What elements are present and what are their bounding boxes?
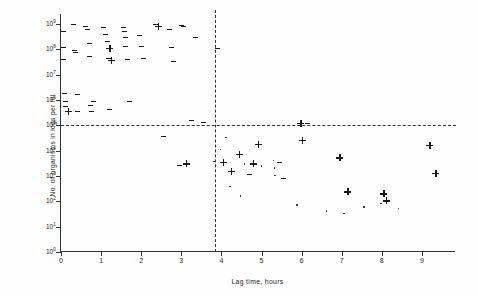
data-point-dash (87, 56, 92, 57)
data-point-dot (240, 195, 242, 197)
x-axis-tick-label: 7 (332, 257, 352, 265)
data-point-plus (236, 151, 243, 158)
x-axis-tick (382, 251, 383, 256)
x-axis-tick (422, 251, 423, 256)
data-point-dash (103, 34, 108, 35)
data-point-dash (87, 43, 92, 44)
data-point-dash (123, 46, 128, 47)
data-point-plus (106, 45, 113, 52)
figure-root: 100101102103104105106107108109 No. of or… (0, 0, 478, 296)
data-point-plus (426, 142, 433, 149)
data-point-dash (169, 47, 174, 48)
data-point-dash (71, 24, 76, 25)
data-point-dash (91, 101, 96, 102)
y-axis-tick (56, 100, 61, 101)
y-axis-tick (56, 151, 61, 152)
data-point-dash (305, 123, 310, 124)
data-point-dash (137, 35, 142, 36)
data-point-plus (255, 141, 262, 148)
data-point-plus (432, 170, 439, 177)
data-point-dash (105, 41, 110, 42)
data-point-dash (63, 101, 68, 102)
x-axis-tick-label: 8 (372, 257, 392, 265)
data-point-plus (108, 57, 115, 64)
data-point-dash (167, 29, 172, 30)
data-point-dot (343, 213, 345, 215)
data-point-dash (201, 122, 206, 123)
data-point-plus (344, 188, 351, 195)
data-point-dash (85, 29, 90, 30)
data-point-dash (75, 94, 80, 95)
data-point-dot (380, 203, 382, 205)
data-point-plus (183, 160, 190, 167)
data-point-plus (228, 168, 235, 175)
data-point-plus (250, 160, 257, 167)
y-axis-tick-label: 100 (46, 248, 56, 255)
data-point-dash (193, 37, 198, 38)
data-point-dash (281, 178, 286, 179)
y-axis-tick (56, 227, 61, 228)
data-point-dash (83, 26, 88, 27)
y-axis-tick (56, 49, 61, 50)
x-axis-title: Lag time, hours (60, 278, 455, 285)
x-axis-tick-label: 1 (91, 257, 111, 265)
data-point-dot (261, 165, 263, 167)
data-point-dash (62, 93, 67, 94)
vertical-reference-line (215, 10, 216, 252)
data-point-plus (336, 154, 343, 161)
data-point-dash (61, 59, 66, 60)
data-point-dash (139, 46, 144, 47)
data-point-plus (155, 23, 162, 30)
data-point-dash (107, 109, 112, 110)
data-point-dot (273, 160, 275, 162)
data-point-dot (363, 206, 365, 208)
data-point-plus (380, 190, 387, 197)
y-axis-tick (56, 201, 61, 202)
x-axis-tick (342, 251, 343, 256)
data-point-dot (229, 186, 231, 188)
x-axis-tick (181, 251, 182, 256)
data-point-plus (65, 108, 72, 115)
data-point-plus (383, 197, 390, 204)
horizontal-reference-line (61, 125, 456, 126)
data-point-dash (121, 27, 126, 28)
data-point-dash (189, 120, 194, 121)
data-point-dash (277, 162, 282, 163)
data-point-dot (296, 204, 298, 206)
data-point-dot (220, 149, 222, 151)
data-point-dash (127, 101, 132, 102)
x-axis-tick (101, 251, 102, 256)
data-point-dash (61, 47, 66, 48)
data-point-dash (177, 165, 182, 166)
data-point-dash (141, 58, 146, 59)
data-point-dash (171, 61, 176, 62)
data-point-dot (274, 167, 276, 169)
x-axis-tick-label: 6 (292, 257, 312, 265)
data-point-plus (299, 137, 306, 144)
data-point-dash (161, 136, 166, 137)
x-axis-tick (262, 251, 263, 256)
data-point-dash (125, 59, 130, 60)
data-point-dot (225, 137, 227, 139)
plot-area: 0123456789 (60, 14, 455, 252)
data-point-dash (122, 31, 127, 32)
data-point-dot (326, 210, 328, 212)
data-point-dash (181, 26, 186, 27)
data-point-dash (123, 37, 128, 38)
x-axis-tick-label: 2 (131, 257, 151, 265)
data-point-dash (247, 174, 252, 175)
x-axis-tick-label: 3 (171, 257, 191, 265)
data-point-dash (88, 105, 93, 106)
data-point-dot (244, 163, 246, 165)
data-marker-layer (61, 14, 456, 252)
y-axis-title: No. of organisms in logs per ml (49, 46, 56, 246)
y-axis-tick (56, 75, 61, 76)
data-point-dot (274, 175, 276, 177)
x-axis-tick-label: 9 (412, 257, 432, 265)
data-point-dash (101, 27, 106, 28)
data-point-plus (220, 159, 227, 166)
data-point-dash (73, 52, 78, 53)
x-axis-tick (221, 251, 222, 256)
x-axis-tick (141, 251, 142, 256)
data-point-dash (89, 111, 94, 112)
